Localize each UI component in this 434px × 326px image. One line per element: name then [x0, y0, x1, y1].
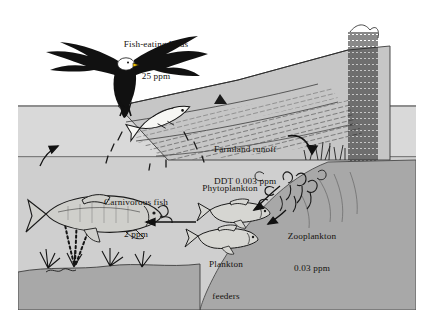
label-fish-eating-birds: Fish-eating birds 25 ppm	[86, 18, 226, 103]
label-zooplankton-value: 0.03 ppm	[260, 263, 364, 274]
label-feeders-name2: feeders	[178, 291, 274, 302]
food-chain-scene: Fish-eating birds 25 ppm Farmland runoff…	[18, 10, 416, 310]
label-feeders-name: Plankton	[178, 259, 274, 270]
label-runoff-name: Farmland runoff	[214, 144, 344, 155]
label-birds-name: Fish-eating birds	[86, 39, 226, 50]
label-zooplankton: Zooplankton 0.03 ppm	[260, 210, 364, 295]
label-carnivorous-name: Carnivorous fish	[76, 197, 196, 208]
label-plankton-feeders: Plankton feeders 0.05 ppm	[178, 238, 274, 310]
lake-floor	[18, 264, 200, 310]
illustration-frame: Fish-eating birds 25 ppm Farmland runoff…	[0, 0, 434, 326]
tree-line	[348, 32, 378, 166]
label-zooplankton-name: Zooplankton	[260, 231, 364, 242]
label-birds-value: 25 ppm	[86, 71, 226, 82]
